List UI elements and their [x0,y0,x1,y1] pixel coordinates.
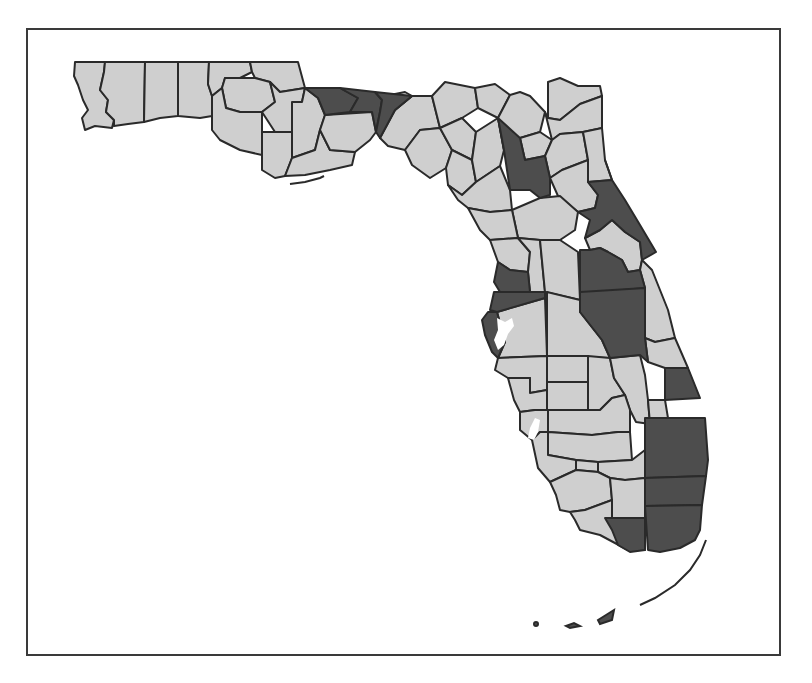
keys-middle [598,610,614,624]
keys-lower [566,623,580,628]
county-highlighted[interactable] [645,418,708,478]
county[interactable] [512,196,578,240]
county[interactable] [320,112,376,152]
county[interactable] [547,382,588,410]
florida-map [0,0,812,683]
barrier-island [290,176,324,184]
county-highlighted[interactable] [665,368,700,400]
county[interactable] [178,62,212,118]
county-highlighted[interactable] [645,505,702,552]
county-highlighted[interactable] [645,476,706,506]
florida-keys [534,540,706,628]
county[interactable] [144,62,178,122]
dry-tortugas [534,622,538,626]
county[interactable] [468,208,518,240]
county[interactable] [610,478,645,518]
county[interactable] [547,356,588,382]
county[interactable] [645,338,688,368]
county[interactable] [540,240,580,300]
